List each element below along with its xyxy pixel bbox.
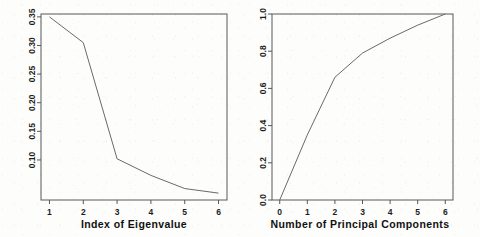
y-tick-label: 0.25 [27,66,37,83]
eigenvalue-series-line [49,17,218,193]
x-tick-label: 1 [305,207,310,217]
x-tick-label: 4 [149,207,154,217]
x-tick-label: 5 [415,207,420,217]
x-tick-label: 5 [182,207,187,217]
x-axis-ticks [280,200,446,204]
y-tick-label: 0.10 [27,151,37,168]
y-tick-label: 1.0 [258,8,268,20]
x-axis-tick-labels: 0123456 [277,207,448,217]
y-axis-ticks [268,14,272,200]
cumulative-variance-svg: 0.00.20.40.60.81.0 0123456 Number of Pri… [240,0,480,237]
y-tick-label: 0.2 [258,157,268,169]
plot-area-right: 0.00.20.40.60.81.0 0123456 [258,8,453,217]
x-axis-title: Index of Eigenvalue [81,218,187,230]
x-tick-label: 1 [47,207,52,217]
y-tick-label: 0.20 [27,94,37,111]
x-tick-label: 2 [81,207,86,217]
cumulative-variance-panel: 0.00.20.40.60.81.0 0123456 Number of Pri… [240,0,480,237]
y-tick-label: 0.15 [27,123,37,140]
x-tick-label: 6 [216,207,221,217]
scree-plot-panel: 0.100.150.200.250.300.35 123456 Index of… [0,0,240,237]
x-tick-label: 6 [443,207,448,217]
scree-and-cumulative-variance-figure: 0.100.150.200.250.300.35 123456 Index of… [0,0,480,237]
x-tick-label: 3 [115,207,120,217]
plot-frame [272,14,453,200]
y-tick-label: 0.8 [258,45,268,57]
x-tick-label: 3 [360,207,365,217]
x-axis-tick-labels: 123456 [47,207,221,217]
x-axis-ticks [49,200,218,204]
y-tick-label: 0.6 [258,82,268,94]
x-axis-title: Number of Principal Components [271,218,450,230]
plot-frame [41,14,227,200]
x-tick-label: 4 [388,207,393,217]
y-axis-tick-labels: 0.00.20.40.60.81.0 [258,8,268,206]
scree-plot-svg: 0.100.150.200.250.300.35 123456 Index of… [0,0,240,237]
y-tick-label: 0.30 [27,37,37,54]
y-tick-label: 0.35 [27,8,37,25]
y-tick-label: 0.0 [258,194,268,206]
x-tick-label: 2 [333,207,338,217]
x-tick-label: 0 [277,207,282,217]
y-axis-tick-labels: 0.100.150.200.250.300.35 [27,8,37,168]
y-axis-ticks [37,17,41,160]
y-tick-label: 0.4 [258,119,268,131]
cumulative-series-line [280,14,446,200]
plot-area-left: 0.100.150.200.250.300.35 123456 [27,8,227,217]
